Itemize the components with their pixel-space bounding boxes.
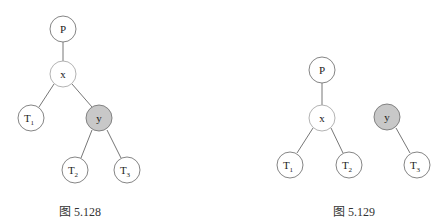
svg-text:y: y: [96, 112, 102, 124]
node-t1: T1: [18, 105, 44, 131]
figure-caption: 图 5.128: [59, 202, 101, 220]
svg-text:x: x: [319, 112, 325, 124]
svg-text:y: y: [384, 111, 390, 123]
edge-x-t1: [297, 128, 313, 153]
node-t3: T3: [114, 157, 140, 183]
edges-fig-5-128: [39, 42, 121, 158]
node-x: x: [309, 105, 335, 131]
edge-x-t1: [39, 84, 54, 107]
node-p: P: [309, 57, 335, 83]
tree-diagrams: P x T1 y T2 T3 P x T1 T2 y T3: [0, 0, 445, 221]
node-t1: T1: [277, 152, 303, 178]
node-t2: T2: [336, 152, 362, 178]
figure-caption: 图 5.129: [333, 202, 375, 220]
edge-x-t2: [331, 128, 343, 153]
node-t3: T3: [404, 152, 430, 178]
node-p: P: [50, 16, 76, 42]
svg-text:x: x: [60, 68, 66, 80]
node-x: x: [50, 61, 76, 87]
edge-x-y: [72, 84, 92, 107]
svg-text:P: P: [319, 64, 325, 76]
node-y: y: [374, 104, 400, 130]
svg-text:P: P: [60, 23, 66, 35]
edge-y-t3: [107, 130, 121, 158]
edge-y-t3: [396, 128, 410, 153]
node-t2: T2: [62, 157, 88, 183]
node-y: y: [86, 105, 112, 131]
edge-y-t2: [81, 130, 92, 158]
